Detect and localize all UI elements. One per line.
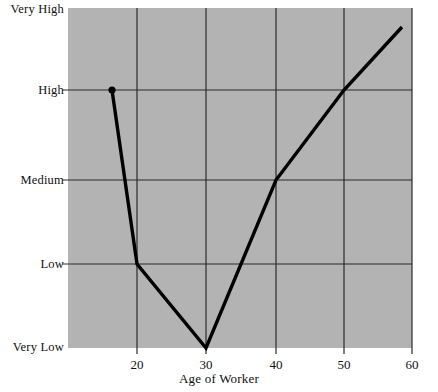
data-point-marker-start	[108, 86, 115, 93]
y-tick-label-medium: Medium	[20, 174, 64, 187]
x-axis-title: Age of Worker	[0, 372, 438, 385]
x-tick-label-20: 20	[131, 358, 144, 371]
y-axis-tick-labels: Very High High Medium Low Very Low	[0, 0, 64, 392]
plot-area-background	[68, 8, 412, 348]
y-tick-label-very-low: Very Low	[13, 341, 64, 354]
y-tick-label-very-high: Very High	[10, 3, 64, 16]
x-tick-label-50: 50	[338, 358, 351, 371]
chart-plot-svg	[0, 0, 438, 392]
x-tick-label-30: 30	[200, 358, 213, 371]
x-tick-label-60: 60	[406, 358, 419, 371]
y-tick-label-low: Low	[40, 258, 64, 271]
y-tick-label-high: High	[38, 84, 64, 97]
x-tick-label-40: 40	[270, 358, 283, 371]
chart-container: Very High High Medium Low Very Low 20 30…	[0, 0, 438, 392]
